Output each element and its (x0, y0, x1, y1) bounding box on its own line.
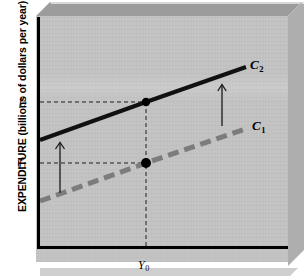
curve-label-c1-subscript: 1 (261, 125, 265, 135)
curve-label-c2-base: C (250, 57, 259, 72)
x-tick-y0-subscript: 0 (145, 264, 149, 273)
y-axis-title: EXPENDITURE (billions of dollars per yea… (16, 12, 28, 212)
marker-intersection-lower (141, 158, 151, 168)
y-tick-f2-subscript: 2 (23, 100, 27, 109)
axis-lines (37, 17, 288, 248)
y-tick-f1-base: f (19, 155, 22, 169)
y-tick-label-f2: f2 (19, 94, 26, 109)
curve-label-c1-base: C (252, 118, 261, 133)
shift-arrow-right (218, 85, 226, 127)
y-tick-f2-base: f (19, 94, 22, 108)
y-tick-label-f1: f1 (19, 155, 26, 170)
x-tick-y0-base: Y (138, 258, 145, 272)
shift-arrow-left (56, 143, 65, 194)
curve-label-c2: C2 (250, 57, 263, 73)
figure-root: EXPENDITURE (billions of dollars per yea… (0, 0, 306, 280)
chart-canvas (0, 0, 306, 280)
y-tick-f1-subscript: 1 (23, 161, 27, 170)
curve-label-c2-subscript: 2 (259, 64, 263, 74)
curve-label-c1: C1 (252, 118, 265, 134)
x-tick-label-y0: Y0 (138, 258, 149, 273)
marker-intersection-upper (142, 98, 150, 106)
guide-lines (40, 102, 146, 247)
